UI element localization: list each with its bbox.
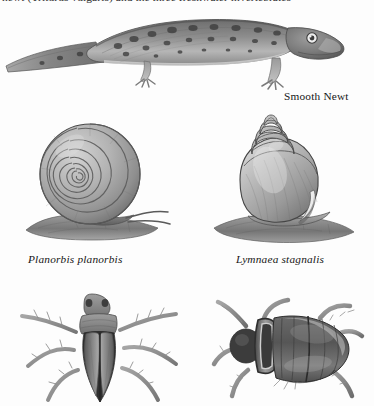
water-bug-illustration xyxy=(16,288,188,406)
figure-planorbis xyxy=(18,118,188,250)
newt-eye xyxy=(307,33,317,43)
lymnaea-illustration xyxy=(196,112,364,250)
figure-water-bug xyxy=(16,288,188,406)
top-body-text-line: newt (Triturus vulgaris) and the three f… xyxy=(2,0,374,4)
newt-front-leg xyxy=(262,58,283,90)
smooth-newt-illustration xyxy=(0,6,360,90)
diving-beetle-illustration xyxy=(202,292,370,404)
caption-lymnaea: Lymnaea stagnalis xyxy=(236,253,324,265)
figure-diving-beetle xyxy=(202,292,370,404)
document-page: newt (Triturus vulgaris) and the three f… xyxy=(0,0,374,406)
figure-smooth-newt xyxy=(0,6,360,90)
planorbis-tentacles xyxy=(126,211,170,224)
figure-lymnaea xyxy=(196,112,364,250)
water-bug-pronotum xyxy=(80,314,117,334)
planorbis-illustration xyxy=(18,118,188,250)
caption-smooth-newt: Smooth Newt xyxy=(284,90,349,102)
caption-planorbis: Planorbis planorbis xyxy=(28,253,123,265)
